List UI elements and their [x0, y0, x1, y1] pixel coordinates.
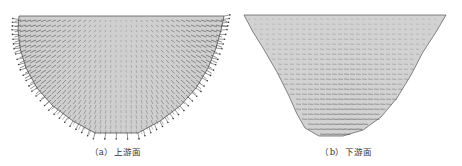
dam-surface	[244, 15, 446, 136]
caption-downstream-face: （b）下游面	[231, 145, 462, 157]
figure-upstream-face: （a）上游面	[0, 0, 231, 166]
figure-downstream-face: （b）下游面	[231, 0, 462, 166]
upstream-displacement-diagram	[0, 0, 231, 145]
downstream-displacement-diagram	[231, 0, 462, 145]
caption-upstream-face: （a）上游面	[0, 145, 231, 157]
